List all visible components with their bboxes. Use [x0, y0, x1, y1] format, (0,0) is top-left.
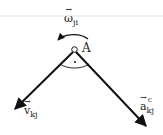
acceleration-label: →ackj — [140, 101, 154, 115]
velocity-label: →vkj — [24, 105, 38, 119]
point-a-circle — [72, 47, 78, 53]
point-a-label: A — [82, 42, 91, 54]
acceleration-vector — [76, 52, 146, 126]
omega-label: →ωji — [64, 13, 78, 27]
right-angle-arc — [60, 64, 89, 68]
right-angle-dot — [74, 61, 76, 63]
rotation-arc-icon — [58, 35, 88, 40]
